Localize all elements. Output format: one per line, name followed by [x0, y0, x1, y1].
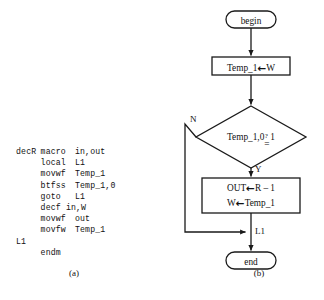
edge-label-no: N [190, 114, 197, 124]
code-operand: L1 [75, 191, 85, 202]
assembly-code-listing: decRmacroin,out localL1 movwfTemp_1 btfs… [16, 146, 156, 258]
code-line: endm [16, 247, 156, 258]
code-line: movwfTemp_1 [16, 168, 156, 179]
load-temp-node-label: Temp_1←W [212, 62, 290, 73]
code-operand: Temp_1,0 [75, 180, 116, 191]
code-operand: in,out [75, 146, 105, 157]
action-out-source: R – 1 [255, 183, 275, 193]
code-statement: decf in,W [41, 202, 87, 213]
load-temp-source: W [266, 63, 275, 73]
decision-node-label: Temp_1,0?=1 [206, 132, 296, 142]
code-operand: Temp_1 [75, 168, 105, 179]
code-opcode: goto [41, 191, 75, 202]
action-out-destination: OUT [227, 183, 246, 193]
code-operand: Temp_1 [75, 224, 105, 235]
code-label: decR [16, 146, 41, 157]
code-line: btfssTemp_1,0 [16, 180, 156, 191]
assign-arrow-icon: ← [246, 183, 255, 194]
end-node-label: end [226, 257, 276, 267]
assign-arrow-icon: ← [236, 198, 245, 209]
action-w-source: Temp_1 [245, 198, 275, 208]
begin-node-label: begin [226, 16, 276, 26]
code-opcode: macro [41, 146, 75, 157]
decision-value: 1 [270, 132, 275, 142]
code-line: movfwTemp_1 [16, 224, 156, 235]
code-opcode: endm [41, 247, 75, 258]
flowchart-graphics [180, 0, 324, 300]
code-label: L1 [16, 236, 41, 247]
code-opcode: movwf [41, 213, 75, 224]
caption-a: (a) [44, 268, 104, 278]
code-line: decf in,W [16, 202, 156, 213]
code-opcode: local [41, 157, 75, 168]
code-operand: out [75, 213, 90, 224]
load-temp-destination: Temp_1 [227, 63, 257, 73]
edge-label-yes: Y [255, 164, 262, 174]
code-operand: L1 [75, 157, 85, 168]
flowchart-panel: begin Temp_1←W Temp_1,0?=1 OUT←R – 1 W←T… [180, 0, 324, 300]
edge-label-junction-l1: L1 [255, 226, 265, 236]
code-line: decRmacroin,out [16, 146, 156, 157]
figure-container: decRmacroin,out localL1 movwfTemp_1 btfs… [0, 0, 324, 300]
code-opcode: movfw [41, 224, 75, 235]
decision-operand: Temp_1,0 [227, 132, 264, 142]
code-opcode: btfss [41, 180, 75, 191]
code-line: localL1 [16, 157, 156, 168]
assign-arrow-icon: ← [257, 62, 266, 73]
code-line: movwfout [16, 213, 156, 224]
code-line: gotoL1 [16, 191, 156, 202]
action-w-destination: W [227, 198, 236, 208]
caption-b: (b) [229, 268, 289, 278]
action-node-line2: W←Temp_1 [202, 197, 300, 208]
code-line: L1 [16, 236, 156, 247]
action-node-line1: OUT←R – 1 [202, 182, 300, 193]
code-opcode: movwf [41, 168, 75, 179]
